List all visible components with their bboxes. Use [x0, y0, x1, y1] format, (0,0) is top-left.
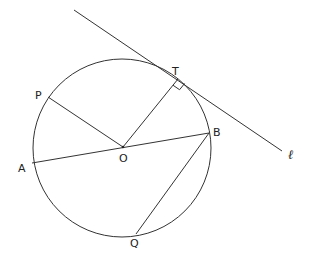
- label-point-b: B: [213, 126, 221, 139]
- point-labels: OTPABQ: [18, 65, 221, 250]
- tangent-label: ℓ: [288, 147, 294, 162]
- label-point-o: O: [119, 152, 128, 165]
- tangent-line: [74, 10, 282, 151]
- segment-bq: [136, 133, 209, 234]
- label-point-a: A: [18, 162, 26, 175]
- segment-op: [48, 97, 123, 147]
- label-point-p: P: [35, 89, 42, 102]
- label-point-t: T: [171, 65, 179, 78]
- center-point: [122, 146, 125, 149]
- geometry-diagram: OTPABQ ℓ: [0, 0, 311, 256]
- segment-ot: [123, 79, 178, 147]
- label-point-q: Q: [130, 237, 139, 250]
- right-angle-marker: [173, 83, 185, 89]
